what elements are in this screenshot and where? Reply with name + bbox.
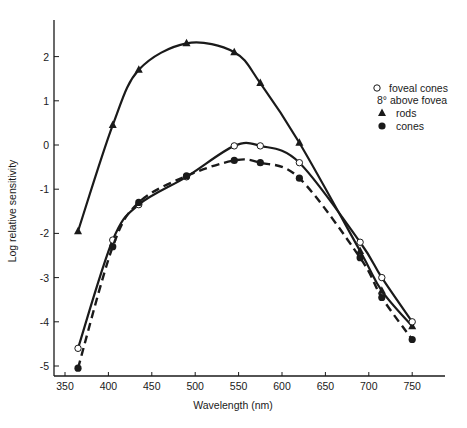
open-circle-marker [357,239,363,245]
x-tick-label: 400 [100,380,118,392]
filled-circle-marker [135,199,142,206]
filled-circle-marker [231,157,238,164]
legend-label: cones [396,120,424,132]
solid-curve [78,42,412,326]
axes: 210-1-2-3-4-5350400450500550600650700750 [40,20,445,392]
filled-circle-marker [183,172,190,179]
filled-circle-marker [378,122,385,129]
open-circle-marker [231,143,237,149]
x-tick-label: 750 [403,380,421,392]
series-filled-triangle [74,39,416,329]
x-tick-label: 450 [143,380,161,392]
legend: foveal cones8° above fovearodscones [374,82,448,132]
x-tick-label: 500 [186,380,204,392]
filled-circle-marker [257,159,264,166]
filled-circle-marker [357,254,364,261]
filled-triangle-marker [74,227,82,235]
legend-label: foveal cones [389,82,448,94]
filled-circle-marker [296,175,303,182]
x-tick-label: 350 [56,380,74,392]
y-tick-label: -5 [40,360,49,372]
open-circle-marker [75,345,81,351]
legend-label: rods [396,107,416,119]
y-tick-label: -2 [40,227,49,239]
legend-label: 8° above fovea [377,94,447,106]
filled-triangle-marker [109,121,117,129]
open-circle-marker [257,143,263,149]
y-tick-label: 2 [43,51,49,63]
open-circle-marker [379,274,385,280]
filled-circle-marker [378,294,385,301]
y-tick-label: 0 [43,139,49,151]
x-tick-label: 600 [273,380,291,392]
x-tick-label: 700 [360,380,378,392]
open-circle-marker [374,85,380,91]
filled-triangle-marker [378,109,386,117]
open-circle-marker [409,319,415,325]
series-filled-circle [74,157,415,372]
filled-circle-marker [109,243,116,250]
open-circle-marker [296,159,302,165]
sensitivity-chart: 210-1-2-3-4-5350400450500550600650700750… [0,0,467,428]
x-axis-title: Wavelength (nm) [193,399,273,411]
y-tick-label: -3 [40,272,49,284]
series-open-circle [75,143,416,352]
dashed-curve [78,159,412,368]
x-tick-label: 550 [230,380,248,392]
filled-circle-marker [409,336,416,343]
solid-curve [78,143,412,348]
y-tick-label: -1 [40,183,49,195]
filled-circle-marker [74,365,81,372]
y-tick-label: 1 [43,95,49,107]
series-layer [74,39,416,372]
y-axis-title: Log relative sensitivity [6,159,18,262]
x-tick-label: 650 [317,380,335,392]
y-tick-label: -4 [40,316,49,328]
